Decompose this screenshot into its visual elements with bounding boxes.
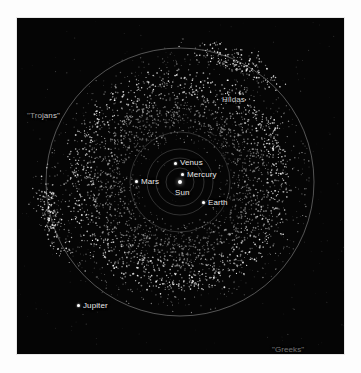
marker-venus	[174, 162, 177, 165]
plot-area: Sun Mercury Venus Earth Mars Jupiter "Tr…	[16, 17, 345, 355]
marker-jupiter	[77, 304, 80, 307]
marker-mercury	[181, 173, 184, 176]
solar-system-figure: Sun Mercury Venus Earth Mars Jupiter "Tr…	[0, 0, 361, 373]
marker-mars	[135, 180, 138, 183]
marker-earth	[202, 201, 205, 204]
marker-sun	[178, 180, 182, 184]
asteroid-scatter-plot	[17, 18, 344, 354]
